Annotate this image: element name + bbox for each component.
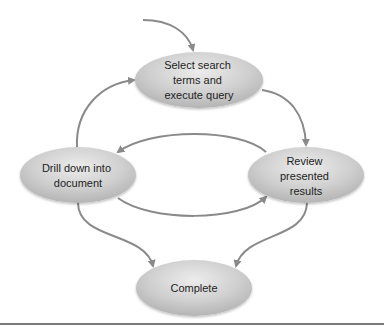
node-complete: Complete [136,260,252,316]
arrow-drill-to-review [118,197,266,216]
search-process-diagram: Select search terms and execute query Dr… [0,0,384,332]
node-review-results: Review presented results [248,147,364,203]
svg-text:Select search terms and: Select search terms and execute query [164,59,234,101]
arrow-review-to-complete [236,203,307,266]
node-select-search-terms: Select search terms and execute query [135,52,263,108]
node-drill-down: Drill down into document [20,147,136,203]
arrow-start-to-select [143,20,193,50]
arrow-drill-to-complete [78,203,153,266]
arrow-select-to-review [262,90,306,145]
arrow-drill-to-select [77,80,134,148]
svg-text:Complete: Complete [170,282,217,294]
horizontal-rule [0,323,384,325]
arrow-review-to-drill [118,134,266,152]
